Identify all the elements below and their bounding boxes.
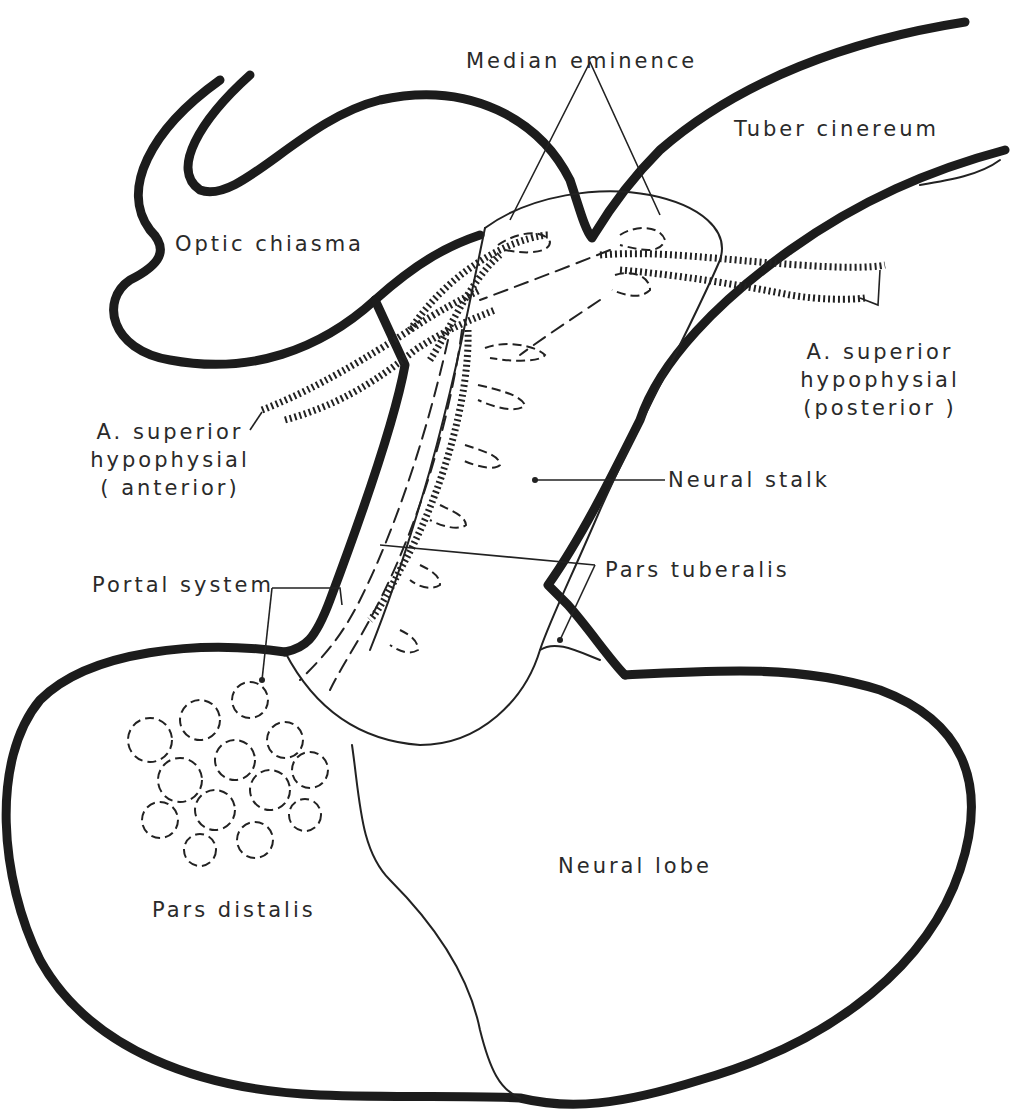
label-sup-hyp-anterior: A. superior hypophysial ( anterior)	[70, 418, 270, 502]
hypophysis-diagram	[0, 0, 1018, 1119]
label-median-eminence: Median eminence	[466, 47, 697, 75]
label-line-1: A. superior	[70, 418, 270, 446]
label-neural-lobe: Neural lobe	[558, 852, 712, 880]
label-line-2: hypophysial	[70, 446, 270, 474]
label-line-3: ( anterior)	[70, 474, 270, 502]
label-pars-tuberalis: Pars tuberalis	[605, 556, 790, 584]
label-optic-chiasma: Optic chiasma	[175, 230, 364, 258]
label-line-1: A. superior	[785, 338, 975, 366]
label-sup-hyp-posterior: A. superior hypophysial (posterior )	[785, 338, 975, 422]
label-line-3: (posterior )	[785, 394, 975, 422]
capillary-loops	[390, 228, 665, 652]
label-pars-distalis: Pars distalis	[152, 896, 316, 924]
label-line-2: hypophysial	[785, 366, 975, 394]
label-neural-stalk: Neural stalk	[668, 466, 830, 494]
label-portal-system: Portal system	[92, 571, 274, 599]
sinusoids	[128, 682, 328, 866]
gland-outline	[6, 647, 971, 1104]
anterior-stalk-outline	[285, 300, 405, 652]
anterior-arteries	[262, 235, 548, 620]
pars-tuberalis-outline	[285, 646, 600, 745]
label-tuber-cinereum: Tuber cinereum	[734, 115, 939, 143]
